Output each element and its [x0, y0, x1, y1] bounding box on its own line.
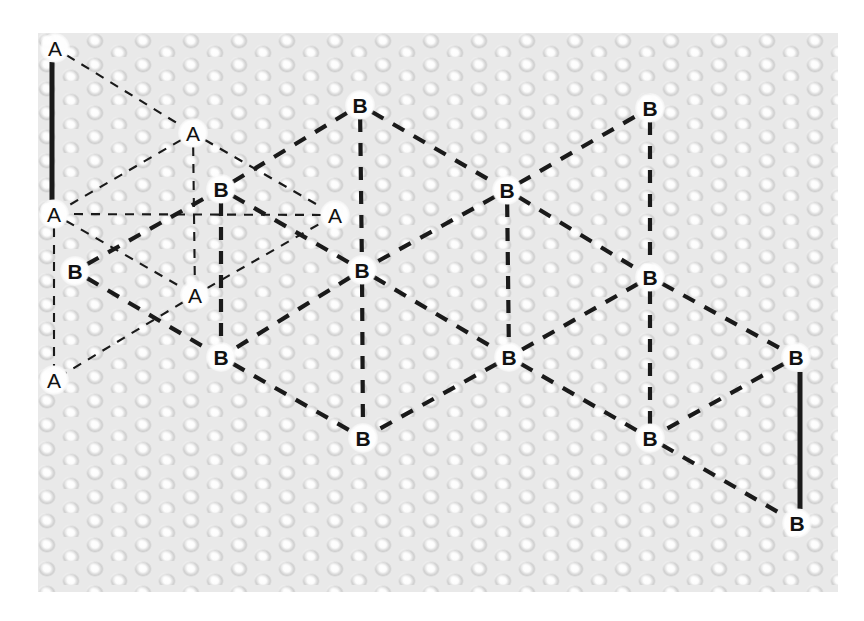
lattice-site-a5: A [180, 280, 210, 310]
lattice-site-b6: B [347, 255, 377, 285]
lattice-bond [519, 197, 638, 269]
lattice-overlay [0, 0, 864, 621]
lattice-bond [233, 277, 350, 349]
b-sublattice-bonds [87, 112, 785, 516]
lattice-site-b9: B [494, 342, 524, 372]
lattice-bond [66, 302, 183, 373]
lattice-bond [507, 204, 509, 343]
lattice-bond [233, 112, 348, 182]
solid-reference-bars [52, 62, 800, 509]
lattice-bond [662, 364, 784, 431]
lattice-site-b1: B [206, 174, 236, 204]
lattice-site-b4: B [635, 93, 665, 123]
lattice-bond [374, 277, 497, 350]
lattice-bond [68, 214, 321, 215]
lattice-site-b11: B [348, 423, 378, 453]
lattice-site-a3: A [39, 199, 69, 229]
figure-canvas: AAAAAABBBBBBBBBBBBB [0, 0, 864, 621]
lattice-bond [87, 196, 209, 264]
lattice-site-b3: B [492, 175, 522, 205]
lattice-site-b10: B [781, 342, 811, 372]
lattice-bond [662, 284, 783, 351]
lattice-site-b12: B [635, 423, 665, 453]
lattice-bond [519, 115, 638, 183]
lattice-bond [375, 364, 497, 431]
lattice-site-b8: B [206, 342, 236, 372]
lattice-site-a1: A [40, 33, 70, 63]
lattice-bond [521, 364, 638, 431]
lattice-bond [67, 55, 181, 125]
lattice-site-a4: A [320, 200, 350, 230]
lattice-site-a6: A [39, 365, 69, 395]
lattice-bond [662, 445, 785, 516]
lattice-bond [374, 197, 494, 263]
lattice-bond [360, 119, 362, 256]
lattice-bond [66, 140, 181, 207]
a-sublattice-bonds [54, 55, 323, 372]
lattice-bond [207, 222, 323, 288]
lattice-bond [521, 284, 638, 350]
lattice-site-b13: B [782, 508, 812, 538]
lattice-site-a2: A [178, 118, 208, 148]
lattice-site-b2: B [345, 90, 375, 120]
lattice-bond [372, 112, 495, 183]
lattice-site-b5: B [60, 256, 90, 286]
lattice-site-b7: B [635, 262, 665, 292]
lattice-bond [233, 364, 351, 431]
lattice-bond [362, 284, 363, 424]
